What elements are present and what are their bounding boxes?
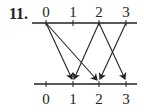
arrow-3-to-2 [100, 23, 126, 79]
domain-label-3: 3 [122, 4, 130, 20]
domain-label-2: 2 [95, 4, 103, 20]
codomain-label-2: 2 [95, 91, 103, 107]
arrow-0-to-2 [46, 23, 97, 80]
mapping-arrows [46, 23, 126, 80]
codomain-label-0: 0 [42, 91, 50, 107]
codomain-number-line: 0 1 2 3 [34, 81, 137, 107]
mapping-diagram: 0 1 2 3 0 1 2 3 [0, 0, 144, 112]
arrow-0-to-1 [46, 23, 72, 79]
domain-label-1: 1 [69, 4, 77, 20]
domain-label-0: 0 [42, 4, 50, 20]
domain-number-line: 0 1 2 3 [32, 4, 137, 26]
arrow-2-to-3 [99, 23, 125, 79]
codomain-label-3: 3 [122, 91, 130, 107]
arrow-2-to-1 [74, 23, 99, 79]
codomain-label-1: 1 [69, 91, 77, 107]
